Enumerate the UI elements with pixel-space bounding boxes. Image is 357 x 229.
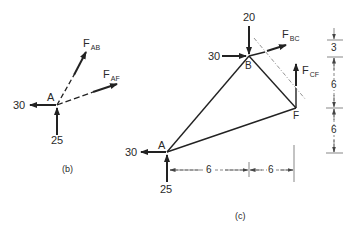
load-label-30-bjoint: 30 (208, 51, 220, 62)
joint-label-a-b: A (47, 92, 54, 103)
dim-label-h2: 6 (267, 165, 275, 175)
fbd-joint-a (30, 52, 117, 135)
dim-label-v2: 6 (330, 80, 338, 90)
load-label-30-a: 30 (125, 147, 137, 158)
joint-label-a-c: A (158, 140, 165, 151)
truss-section (141, 26, 306, 182)
caption-b: (b) (62, 165, 73, 174)
member-ab-line (57, 75, 74, 105)
load-label-25-b: 25 (51, 135, 63, 146)
member-bf (249, 56, 296, 108)
label-fcf: FCF (302, 65, 319, 76)
label-fbc: FBC (282, 29, 299, 40)
force-arrow-fbc (267, 45, 286, 51)
member-af-line (57, 92, 93, 105)
joint-label-f: F (293, 111, 299, 121)
caption-c: (c) (235, 212, 246, 221)
label-fab: FAB (83, 38, 100, 49)
joint-label-b: B (245, 61, 252, 71)
dim-label-v1: 3 (330, 43, 338, 53)
load-label-25-c: 25 (160, 184, 172, 195)
dim-label-v3: 6 (330, 125, 338, 135)
load-label-30-b: 30 (13, 100, 25, 111)
diagram-drawing (0, 0, 357, 229)
label-faf: FAF (103, 69, 120, 80)
dim-label-h1: 6 (205, 165, 213, 175)
force-arrow-fab (74, 52, 86, 75)
horizontal-dimensions (170, 145, 294, 182)
load-label-20: 20 (243, 12, 255, 23)
force-arrow-faf (93, 84, 117, 92)
truss-diagram: FAB FAF A 30 25 (b) 20 30 B FBC FCF F A … (0, 0, 357, 229)
